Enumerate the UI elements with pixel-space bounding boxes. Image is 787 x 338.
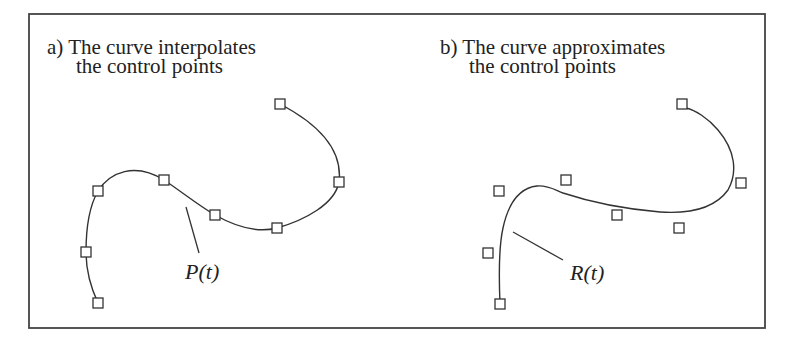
panel-a-title-line2: the control points: [76, 54, 223, 78]
control-point-a8: [275, 99, 285, 109]
control-point-b2: [483, 248, 493, 258]
control-point-a1: [93, 298, 103, 308]
panel-b-title-line2: the control points: [469, 54, 616, 78]
control-point-b7: [736, 178, 746, 188]
control-point-b3: [494, 186, 504, 196]
r-curve-label: R(t): [569, 260, 604, 285]
control-point-a3: [93, 186, 103, 196]
control-point-b6: [674, 223, 684, 233]
panel-b-control-points: [483, 99, 746, 309]
control-point-a7: [334, 177, 344, 187]
panel-a: a) The curve interpolates the control po…: [47, 35, 344, 308]
r-label-leader-line: [513, 232, 563, 260]
control-point-a6: [272, 223, 282, 233]
panel-b: b) The curve approximates the control po…: [440, 35, 746, 309]
p-curve-label: P(t): [184, 259, 219, 284]
control-point-b5: [612, 210, 622, 220]
control-point-b1: [495, 299, 505, 309]
curve-interpolation-diagram: a) The curve interpolates the control po…: [0, 0, 787, 338]
control-point-b4: [561, 175, 571, 185]
control-point-a2: [81, 247, 91, 257]
approximating-curve-r: [499, 108, 734, 304]
control-point-a4: [159, 175, 169, 185]
control-point-b8: [677, 99, 687, 109]
control-point-a5: [210, 210, 220, 220]
p-label-leader-line: [186, 207, 199, 253]
